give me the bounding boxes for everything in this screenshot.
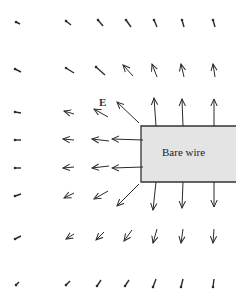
field-arrow [15, 194, 21, 196]
field-arrow [182, 99, 183, 126]
field-arrow [181, 64, 184, 77]
field-arrow [94, 109, 108, 117]
field-arrow [15, 236, 21, 239]
field-arrow [63, 167, 74, 168]
field-arrow [126, 20, 131, 27]
field-arrow [117, 102, 139, 123]
field-arrow [153, 229, 157, 243]
field-arrow [123, 65, 133, 76]
field-arrow [182, 20, 184, 27]
field-arrow [153, 182, 156, 210]
field-arrow [213, 279, 214, 287]
field-arrow [181, 279, 183, 287]
field-arrow [98, 20, 103, 26]
field-arrow [64, 193, 74, 198]
field-arrow [182, 182, 183, 208]
field-arrow [96, 67, 105, 75]
field-arrow [66, 234, 74, 239]
field-arrow [213, 229, 214, 243]
field-arrow [92, 139, 109, 141]
field-arrow [15, 112, 21, 113]
field-arrow [16, 282, 19, 285]
wire-label: Bare wire [162, 146, 205, 158]
field-arrow [154, 98, 156, 126]
field-arrow [66, 281, 70, 285]
field-arrow [96, 232, 104, 240]
field-arrow [125, 280, 129, 286]
field-vector-plot [0, 0, 249, 299]
field-arrow [154, 20, 157, 27]
field-arrow [213, 64, 215, 77]
field-arrow [16, 22, 20, 24]
field-label-e: E [99, 96, 106, 108]
field-arrow [64, 111, 74, 114]
field-arrow [181, 229, 183, 243]
field-arrow [112, 167, 143, 168]
field-arrow [117, 184, 139, 206]
field-diagram: E Bare wire [0, 0, 249, 299]
field-arrow [97, 280, 101, 286]
field-arrow [92, 166, 109, 168]
field-arrow [66, 21, 71, 25]
field-arrow [213, 20, 215, 27]
field-arrow [94, 191, 108, 199]
field-arrow [112, 139, 143, 140]
field-arrow [124, 230, 132, 241]
field-arrow [152, 64, 157, 77]
field-arrow [153, 279, 156, 287]
field-arrow [66, 68, 74, 73]
field-arrow [15, 69, 21, 72]
field-arrow [63, 139, 74, 140]
